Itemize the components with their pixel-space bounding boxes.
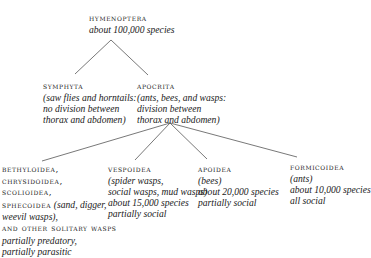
node-note: about 100,000 species bbox=[89, 24, 175, 35]
node-desc-line: no division between bbox=[43, 103, 137, 114]
node-desc-line: (bees) bbox=[198, 175, 279, 186]
node-desc-line: partially social bbox=[198, 197, 279, 208]
node-desc-line: (ants) bbox=[290, 173, 371, 184]
node-hymenoptera: HYMENOPTERA about 100,000 species bbox=[89, 13, 175, 35]
node-desc-line: (sand, digger, bbox=[54, 199, 107, 210]
node-apocrita: APOCRITA (ants, bees, and wasps: divisio… bbox=[137, 81, 226, 125]
node-title: APOCRITA bbox=[137, 81, 226, 92]
node-title: SYMPHYTA bbox=[43, 81, 137, 92]
node-desc-line: weevil wasps), bbox=[2, 211, 117, 223]
node-desc-line: social wasps, mud wasps) bbox=[108, 186, 207, 197]
node-title: AND OTHER SOLITARY WASPS bbox=[2, 223, 117, 235]
node-title: VESPOIDEA bbox=[108, 164, 207, 175]
node-title: SCOLIOIDEA, bbox=[2, 187, 117, 199]
node-title: SPHECOIDEA bbox=[2, 200, 51, 210]
node-desc-line: partially predatory, bbox=[2, 235, 117, 247]
node-desc-line: about 20,000 species bbox=[198, 186, 279, 197]
node-desc-line: about 10,000 species bbox=[290, 184, 371, 195]
node-desc-line: (saw flies and horntails: bbox=[43, 92, 137, 103]
node-desc-line: about 15,000 species bbox=[108, 197, 207, 208]
node-desc-line: (spider wasps, bbox=[108, 175, 207, 186]
node-desc-line: thorax and abdomen) bbox=[43, 114, 137, 125]
node-desc-line: partially parasitic bbox=[2, 246, 117, 258]
node-symphyta: SYMPHYTA (saw flies and horntails: no di… bbox=[43, 81, 137, 125]
node-title: FORMICOIDEA bbox=[290, 162, 371, 173]
node-desc-line: division between bbox=[137, 103, 226, 114]
node-title: CHRYSIDOIDEA, bbox=[2, 176, 117, 188]
node-solitary-wasps: BETHYLOIDEA, CHRYSIDOIDEA, SCOLIOIDEA, S… bbox=[2, 164, 117, 258]
node-formicoidea: FORMICOIDEA (ants) about 10,000 species … bbox=[290, 162, 371, 206]
node-apoidea: APOIDEA (bees) about 20,000 species part… bbox=[198, 164, 279, 208]
node-desc-line: partially social bbox=[108, 208, 207, 219]
node-title: HYMENOPTERA bbox=[89, 13, 175, 24]
node-desc-line: (ants, bees, and wasps: bbox=[137, 92, 226, 103]
node-desc-line: all social bbox=[290, 195, 371, 206]
node-desc-line: thorax and abdomen) bbox=[137, 114, 226, 125]
node-title: APOIDEA bbox=[198, 164, 279, 175]
node-vespoidea: VESPOIDEA (spider wasps, social wasps, m… bbox=[108, 164, 207, 219]
node-title: BETHYLOIDEA, bbox=[2, 164, 117, 176]
